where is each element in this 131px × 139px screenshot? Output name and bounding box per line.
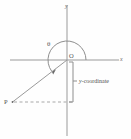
y-coordinate-bracket xyxy=(69,62,77,102)
y-axis-label: y xyxy=(65,3,68,9)
x-axis-label: x xyxy=(120,56,123,62)
coordinate-diagram: y x O θ P y-coordinate xyxy=(0,0,131,139)
y-coordinate-label-rest: -coordinate xyxy=(82,78,109,84)
point-p-label: P xyxy=(4,99,8,106)
angle-theta-label: θ xyxy=(47,41,50,48)
point-p-marker xyxy=(12,101,14,103)
diagram-canvas xyxy=(0,0,131,139)
ray-to-point xyxy=(13,60,68,102)
y-coordinate-label: y-coordinate xyxy=(79,78,109,84)
origin-label: O xyxy=(69,53,74,60)
